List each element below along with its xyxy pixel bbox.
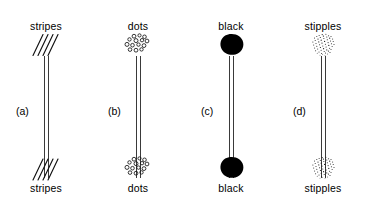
panel-letter-b: (b) <box>108 105 121 117</box>
stipples-pattern-icon-bottom <box>277 148 369 182</box>
bottom-label-a: stripes <box>0 182 92 194</box>
panel-letter-a: (a) <box>16 105 29 117</box>
specimen-panel-a: stripes (a) <box>0 0 92 204</box>
bottom-label-b: dots <box>92 182 184 194</box>
top-label-d: stipples <box>277 20 369 32</box>
bottom-label-d: stipples <box>277 182 369 194</box>
bottom-label-c: black <box>185 182 277 194</box>
dots-pattern-icon-bottom <box>92 148 184 182</box>
specimen-panel-c: black (c) black <box>185 0 277 204</box>
stripes-pattern-icon-bottom <box>0 148 92 182</box>
panel-letter-d: (d) <box>293 105 306 117</box>
panel-letter-c: (c) <box>201 105 213 117</box>
top-label-b: dots <box>92 20 184 32</box>
top-label-c: black <box>185 20 277 32</box>
black-blob-icon-bottom <box>185 148 277 182</box>
top-label-a: stripes <box>0 20 92 32</box>
figure-canvas: stripes (a) <box>0 0 370 204</box>
specimen-panel-b: dots <box>92 0 184 204</box>
specimen-panel-d: stipples <box>277 0 369 204</box>
